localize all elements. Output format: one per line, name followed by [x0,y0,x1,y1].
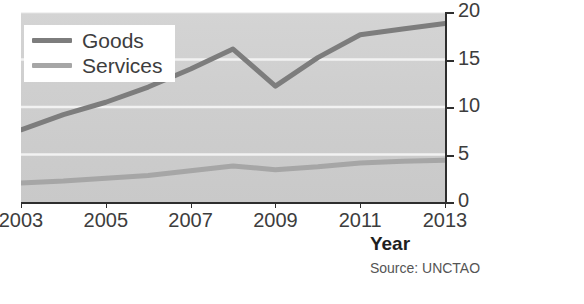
x-tick [275,202,276,208]
x-axis-line [21,202,447,204]
legend-swatch-icon [32,38,72,43]
x-tick [21,202,22,208]
x-tick-label: 2013 [405,209,485,232]
y-tick-label: 5 [458,142,469,165]
x-tick-label: 2009 [235,209,315,232]
y-tick-label: 20 [458,0,480,22]
y-tick [447,202,454,204]
chart-legend: GoodsServices [24,25,175,82]
x-tick [360,202,361,208]
x-tick [191,202,192,208]
y-tick-label: 10 [458,94,480,117]
legend-swatch-icon [32,63,72,68]
x-tick-label: 2011 [320,209,400,232]
legend-item-goods[interactable]: Goods [32,30,163,51]
y-tick [447,155,454,157]
source-note: Source: UNCTAO [330,260,520,276]
x-tick [445,202,446,208]
y-tick-label: 0 [458,189,469,212]
y-tick [447,60,454,62]
x-tick-label: 2007 [151,209,231,232]
x-tick [106,202,107,208]
line-chart-figure: 200320052007200920112013 05101520 US$ tr… [0,0,584,304]
legend-item-services[interactable]: Services [32,55,163,76]
y-tick [447,107,454,109]
y-tick-label: 15 [458,47,480,70]
x-tick-label: 2003 [0,209,61,232]
legend-label: Services [82,55,163,76]
x-axis-title: Year [330,233,450,255]
clipped-caption-strip [18,293,578,304]
legend-label: Goods [82,30,144,51]
x-tick-label: 2005 [66,209,146,232]
series-line-services [21,160,445,183]
y-axis-title: US$ trillion [497,0,519,8]
y-tick [447,12,454,14]
